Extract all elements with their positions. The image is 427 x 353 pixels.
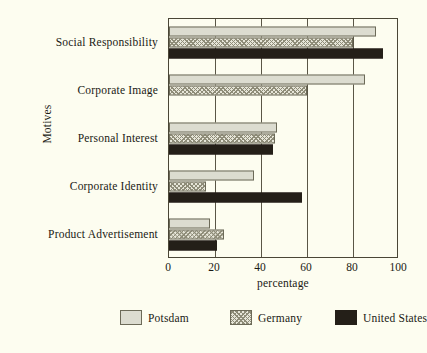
bar	[169, 219, 210, 229]
legend-entry[interactable]: Potsdam	[120, 310, 189, 325]
bar	[169, 38, 353, 48]
plot-area	[168, 18, 398, 258]
bar	[169, 182, 206, 192]
bar	[169, 171, 254, 181]
bar	[169, 193, 302, 203]
bar	[169, 123, 277, 133]
category-label: Corporate Identity	[8, 180, 158, 192]
legend-entry[interactable]: Germany	[230, 310, 302, 325]
bar-group	[169, 219, 397, 252]
bar-group	[169, 75, 397, 108]
legend-label: Germany	[258, 312, 302, 324]
chart-figure: Motives Social ResponsibilityCorporate I…	[0, 0, 427, 353]
category-label: Personal Interest	[8, 132, 158, 144]
bar	[169, 241, 217, 251]
x-axis-tick-labels: 020406080100	[168, 261, 398, 275]
bar-group	[169, 171, 397, 204]
bar-group	[169, 123, 397, 156]
legend-label: United States	[363, 312, 427, 324]
bar-group	[169, 27, 397, 60]
bar	[169, 49, 383, 59]
bar	[169, 230, 224, 240]
bar	[169, 145, 273, 155]
category-label: Social Responsibility	[8, 36, 158, 48]
legend-swatch	[335, 310, 357, 325]
legend-swatch	[120, 310, 142, 325]
x-tick-label: 0	[165, 261, 171, 273]
legend-swatch	[230, 310, 252, 325]
bar	[169, 134, 275, 144]
category-label: Product Advertisement	[8, 228, 158, 240]
x-tick-label: 60	[300, 261, 312, 273]
bar	[169, 75, 365, 85]
legend-entry[interactable]: United States	[335, 310, 427, 325]
x-tick-label: 20	[208, 261, 220, 273]
legend-label: Potsdam	[148, 312, 189, 324]
category-label: Corporate Image	[8, 84, 158, 96]
category-axis-labels: Social ResponsibilityCorporate ImagePers…	[8, 18, 163, 258]
x-tick-label: 40	[254, 261, 266, 273]
x-axis-title: percentage	[168, 277, 398, 289]
bar	[169, 86, 307, 96]
bar	[169, 27, 376, 37]
legend: PotsdamGermanyUnited States	[120, 310, 420, 330]
x-tick-label: 100	[389, 261, 406, 273]
x-tick-label: 80	[346, 261, 358, 273]
